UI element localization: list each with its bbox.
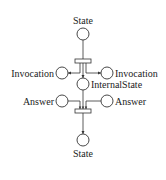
place-internal-state: [77, 78, 89, 90]
place-invocation-right: [101, 67, 113, 79]
petri-net-diagram: State Invocation Invocation InternalStat…: [0, 0, 166, 180]
edge-split-to-invocation-left: [68, 63, 80, 73]
label-answer-left: Answer: [23, 96, 55, 107]
label-internal-state: InternalState: [91, 79, 143, 90]
label-state-top: State: [73, 15, 94, 26]
label-invocation-left: Invocation: [11, 68, 54, 79]
place-state-bottom: [77, 134, 89, 146]
split-transition: [75, 59, 91, 63]
place-answer-right: [101, 95, 113, 107]
label-invocation-right: Invocation: [115, 68, 158, 79]
edge-answer-left-to-join: [68, 101, 80, 109]
edge-answer-right-to-join: [86, 101, 101, 109]
label-answer-right: Answer: [115, 96, 147, 107]
join-transition: [75, 109, 91, 113]
place-answer-left: [56, 95, 68, 107]
label-state-bottom: State: [73, 148, 94, 159]
place-state-top: [77, 28, 89, 40]
place-invocation-left: [56, 67, 68, 79]
edge-split-to-invocation-right: [86, 63, 101, 73]
